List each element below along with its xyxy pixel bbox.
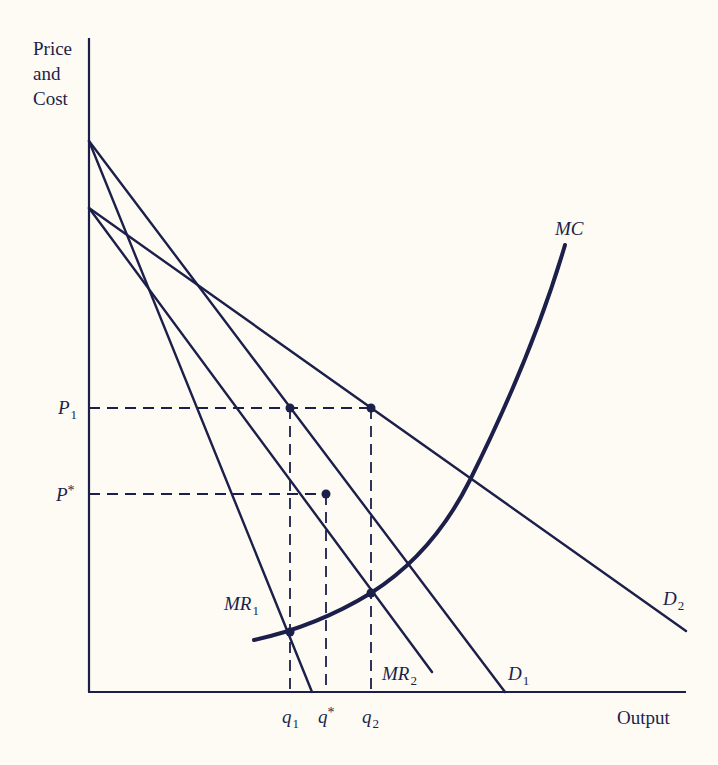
mr1-label-sub: 1 — [252, 603, 259, 618]
y-axis-title-line: Cost — [33, 86, 72, 111]
mr1-label-base: MR — [224, 593, 251, 614]
d1-curve — [89, 141, 505, 692]
d2-curve — [89, 208, 686, 631]
mr1-label: MR1 — [224, 594, 259, 613]
p1-label-sub: 1 — [71, 407, 78, 422]
mr2-label: MR2 — [382, 664, 417, 683]
p1-label-base: P — [58, 397, 70, 418]
mc-label: MC — [555, 219, 584, 238]
point-p1-d2 — [367, 404, 376, 413]
mr1-curve — [89, 141, 312, 692]
point-mr1-mc — [286, 628, 295, 637]
pstar-label: P* — [56, 485, 75, 504]
pstar-label-sup: * — [68, 483, 75, 498]
qstar-label-base: q — [318, 706, 328, 727]
mr2-label-sub: 2 — [410, 673, 417, 688]
point-pstar — [322, 490, 331, 499]
point-p1-d1 — [286, 404, 295, 413]
d2-label-base: D — [663, 588, 677, 609]
mc-curve — [254, 245, 565, 640]
diagram-canvas — [0, 0, 718, 765]
d2-label-sub: 2 — [678, 598, 685, 613]
point-mr2-mc — [367, 589, 376, 598]
d1-label-sub: 1 — [523, 673, 530, 688]
d1-label: D1 — [508, 664, 529, 683]
x-axis-title: Output — [617, 708, 670, 727]
y-axis-title: Price and Cost — [33, 36, 72, 111]
q2-label-sub: 2 — [373, 716, 380, 731]
q1-label: q1 — [282, 707, 299, 726]
q1-label-sub: 1 — [293, 716, 300, 731]
y-axis-title-line: Price — [33, 36, 72, 61]
q2-label-base: q — [362, 706, 372, 727]
q1-label-base: q — [282, 706, 292, 727]
y-axis-title-line: and — [33, 61, 72, 86]
mr2-curve — [89, 208, 432, 672]
p1-label: P1 — [58, 398, 77, 417]
pstar-label-base: P — [56, 484, 68, 505]
qstar-label-sup: * — [328, 705, 335, 720]
mr2-label-base: MR — [382, 663, 409, 684]
d1-label-base: D — [508, 663, 522, 684]
d2-label: D2 — [663, 589, 684, 608]
q2-label: q2 — [362, 707, 379, 726]
qstar-label: q* — [318, 707, 335, 726]
